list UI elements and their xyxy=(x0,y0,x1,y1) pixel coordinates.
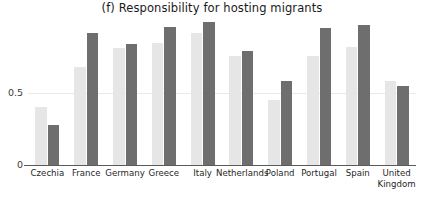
bar xyxy=(268,100,280,165)
bar xyxy=(307,56,319,165)
bar xyxy=(346,47,358,165)
bar xyxy=(48,125,60,165)
bar xyxy=(87,33,99,165)
bar xyxy=(152,43,164,165)
chart-container: (f) Responsibility for hosting migrants … xyxy=(0,0,424,197)
plot-area xyxy=(28,21,416,165)
y-tick-label: 0.5 xyxy=(8,88,23,98)
x-tick-label: United Kingdom xyxy=(371,168,422,189)
x-axis-tick-labels: CzechiaFranceGermanyGreeceItalyNetherlan… xyxy=(28,168,416,197)
bar xyxy=(203,22,215,165)
bar xyxy=(113,48,125,165)
bar xyxy=(164,27,176,165)
y-axis-tick-labels: 00.5 xyxy=(0,0,23,197)
chart-title: (f) Responsibility for hosting migrants xyxy=(0,1,424,15)
bar xyxy=(281,81,293,165)
bar xyxy=(74,67,86,165)
bar xyxy=(320,28,332,165)
bar xyxy=(385,81,397,165)
bar xyxy=(126,44,138,165)
bar xyxy=(358,25,370,165)
bar xyxy=(229,56,241,165)
bar xyxy=(191,33,203,165)
x-axis-line xyxy=(24,165,416,166)
bar xyxy=(397,86,409,165)
bar xyxy=(35,107,47,165)
bar xyxy=(242,51,254,165)
